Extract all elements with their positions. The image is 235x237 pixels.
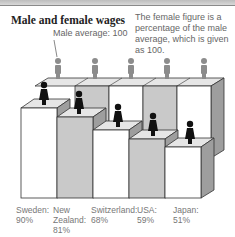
label-sweden: Sweden:90% — [16, 205, 49, 225]
bar-new-zealand — [57, 117, 93, 198]
back-top — [35, 78, 224, 86]
bar-sweden — [21, 108, 57, 198]
chart-graphic — [0, 0, 235, 237]
bar-japan — [165, 147, 201, 198]
label-new-zealand: New Zealand:81% — [53, 205, 87, 235]
label-switzerland: Switzerland:68% — [91, 205, 137, 225]
bar-usa — [129, 139, 165, 198]
label-japan: Japan:51% — [173, 205, 199, 225]
leader-line — [54, 40, 57, 57]
label-usa: USA:59% — [137, 205, 157, 225]
bar-switzerland — [93, 130, 129, 198]
male-figures — [55, 58, 207, 79]
